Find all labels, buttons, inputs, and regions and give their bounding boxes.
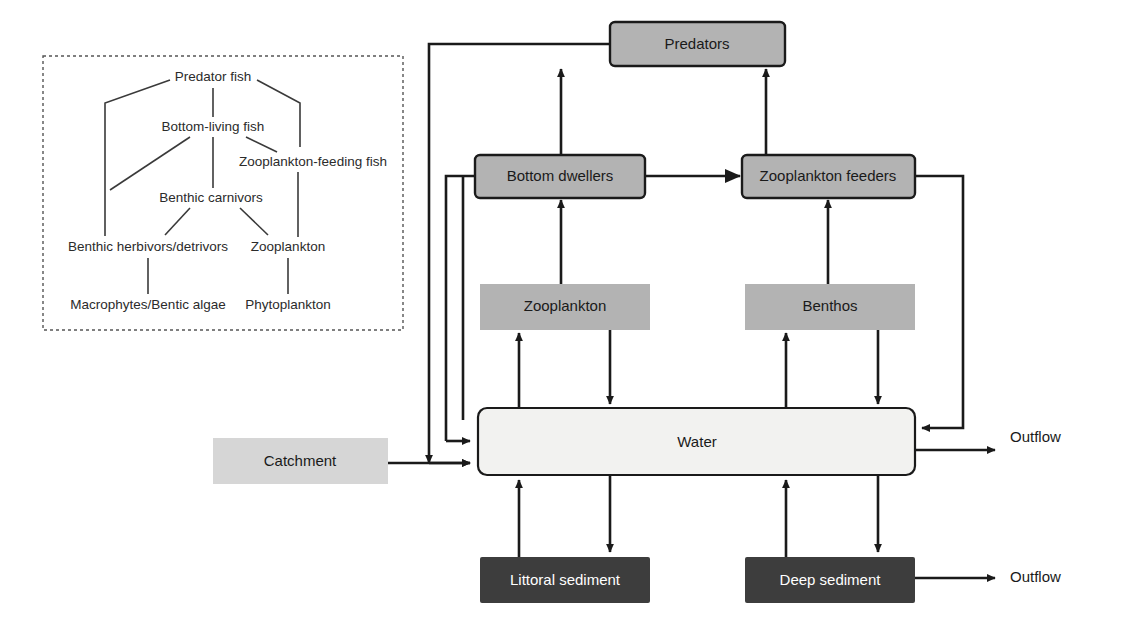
inset-node-benthic-carnivors: Benthic carnivors	[159, 190, 263, 205]
flow-bottom-dwellers-to-water	[446, 176, 475, 441]
food-web-inset: Predator fish Bottom-living fish Zooplan…	[43, 56, 403, 330]
benthos-label: Benthos	[802, 297, 857, 314]
inset-node-zooplankton: Zooplankton	[251, 239, 325, 254]
zooplankton-feeders-label: Zooplankton feeders	[760, 167, 897, 184]
box-zooplankton-feeders[interactable]: Zooplankton feeders	[742, 155, 915, 198]
box-benthos[interactable]: Benthos	[745, 284, 915, 330]
inset-links	[105, 80, 300, 294]
catchment-label: Catchment	[264, 452, 337, 469]
inset-node-phytoplankton: Phytoplankton	[245, 297, 331, 312]
box-littoral-sediment[interactable]: Littoral sediment	[480, 557, 650, 603]
inset-node-predator-fish: Predator fish	[175, 69, 252, 84]
box-deep-sediment[interactable]: Deep sediment	[745, 557, 915, 603]
inset-node-zooplankton-feeding-fish: Zooplankton-feeding fish	[239, 154, 387, 169]
ecosystem-diagram: Predator fish Bottom-living fish Zooplan…	[0, 0, 1122, 633]
water-label: Water	[677, 433, 716, 450]
outflow-sediment-label: Outflow	[1010, 568, 1061, 585]
inset-node-macrophytes-bentic-algae: Macrophytes/Bentic algae	[70, 297, 225, 312]
inset-node-benthic-herbivors-detrivors: Benthic herbivors/detrivors	[68, 239, 228, 254]
box-bottom-dwellers[interactable]: Bottom dwellers	[475, 155, 645, 198]
predators-label: Predators	[664, 35, 729, 52]
box-zooplankton[interactable]: Zooplankton	[480, 284, 650, 330]
flow-zfeeders-to-water	[915, 176, 963, 428]
box-water[interactable]: Water	[478, 408, 915, 475]
outflow-water-label: Outflow	[1010, 428, 1061, 445]
box-catchment[interactable]: Catchment	[213, 438, 388, 484]
zooplankton-label: Zooplankton	[524, 297, 607, 314]
box-predators[interactable]: Predators	[610, 22, 785, 66]
deep-sediment-label: Deep sediment	[780, 571, 882, 588]
littoral-sediment-label: Littoral sediment	[510, 571, 621, 588]
bottom-dwellers-label: Bottom dwellers	[507, 167, 614, 184]
inset-node-bottom-living-fish: Bottom-living fish	[162, 119, 265, 134]
